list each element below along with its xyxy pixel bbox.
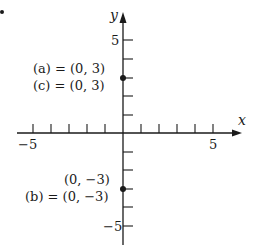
x-axis-label: x	[238, 112, 246, 128]
point-label-b-coords: (0, −3)	[64, 172, 110, 187]
point-a-c	[120, 75, 126, 81]
bullet-marker	[0, 10, 4, 14]
point-label-a: (a) = (0, 3)	[33, 61, 105, 76]
y-axis-arrow-icon	[120, 12, 127, 23]
point-label-c: (c) = (0, 3)	[33, 78, 105, 93]
y-tick-label-5: 5	[111, 33, 119, 48]
y-axis-label: y	[109, 7, 119, 23]
point-label-b: (b) = (0, −3)	[25, 189, 108, 204]
x-tick-label-neg5: −5	[18, 137, 37, 152]
coordinate-plane: y x 5 −5 −5 5 (a) = (0, 3) (c) = (0, 3) …	[0, 0, 253, 250]
point-b	[120, 186, 126, 192]
x-tick-label-5: 5	[209, 137, 217, 152]
x-axis-arrow-icon	[232, 130, 242, 137]
y-tick-label-neg5: −5	[103, 219, 122, 234]
